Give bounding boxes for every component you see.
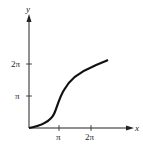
y-arrow-icon [27, 14, 32, 22]
y-tick-pi: π [15, 91, 20, 101]
x-axis-label: x [134, 123, 139, 133]
curve [29, 60, 108, 128]
y-axis-label: y [25, 4, 30, 14]
y-tick-2pi: 2π [11, 59, 21, 69]
x-tick-2pi: 2π [85, 132, 95, 142]
chart: y x π 2π π 2π [0, 0, 143, 153]
x-arrow-icon [126, 126, 134, 131]
x-tick-pi: π [56, 132, 61, 142]
